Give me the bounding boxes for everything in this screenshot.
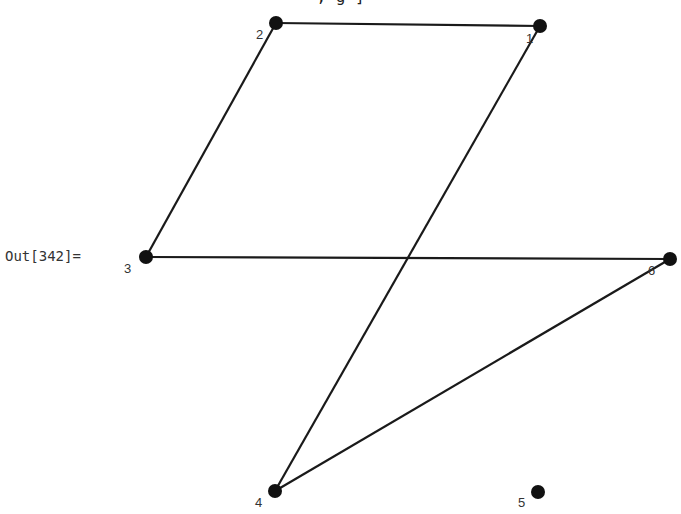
- graph-nodes: 123456: [124, 16, 677, 510]
- node-1: [533, 19, 547, 33]
- node-5: [531, 485, 545, 499]
- edge-4-6: [275, 259, 670, 491]
- node-3: [139, 250, 153, 264]
- node-2: [269, 16, 283, 30]
- node-label-2: 2: [256, 27, 263, 42]
- graph-edges: [146, 23, 670, 491]
- node-6: [663, 252, 677, 266]
- node-label-5: 5: [518, 495, 525, 510]
- edge-1-2: [276, 23, 540, 26]
- node-label-6: 6: [648, 263, 655, 278]
- node-4: [268, 484, 282, 498]
- graph-plot: 123456: [0, 0, 681, 514]
- node-label-3: 3: [124, 261, 131, 276]
- node-label-1: 1: [526, 31, 533, 46]
- node-label-4: 4: [255, 495, 262, 510]
- edge-2-3: [146, 23, 276, 257]
